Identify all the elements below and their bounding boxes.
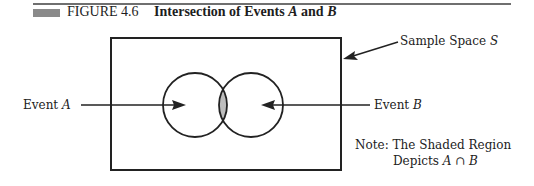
label-event-b-text: Event (374, 98, 413, 112)
label-event-a-text: Event (23, 98, 62, 112)
note: Note: The Shaded Region Depicts A ∩ B (355, 137, 511, 169)
note-line-1: Note: The Shaded Region (355, 138, 511, 152)
label-event-a: Event A (23, 98, 71, 112)
label-sample-space: Sample Space S (400, 34, 498, 48)
note-expression: A ∩ B (443, 154, 478, 168)
label-sample-space-text: Sample Space (400, 34, 490, 48)
label-event-a-var: A (62, 98, 71, 112)
label-sample-space-var: S (490, 34, 498, 48)
label-event-b: Event B (374, 98, 422, 112)
arrow-event-a (81, 100, 186, 110)
note-line-2: Depicts A ∩ B (355, 153, 511, 169)
label-event-b-var: B (413, 98, 422, 112)
arrow-event-b (261, 100, 370, 110)
note-line-2-text: Depicts (393, 154, 443, 168)
arrow-sample-space (343, 42, 398, 60)
